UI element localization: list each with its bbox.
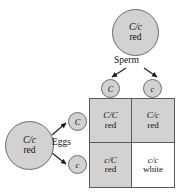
punnett-cell-2: C/c red [132,99,174,143]
punnett-cell-2-phenotype: red [147,121,159,130]
sperm-gamete-c: c [143,79,162,98]
arrow-sperm-left [112,68,126,77]
punnett-cell-3: c/C red [90,143,132,187]
punnett-cell-1: C/C red [90,99,132,143]
sperm-gamete-C: C [101,79,120,98]
arrow-egg-top [52,123,66,135]
arrow-sperm-right [144,68,157,77]
eggs-label: Eggs [52,137,71,147]
punnett-grid: C/C red C/c red c/C red c/c white [89,98,175,188]
arrow-egg-bottom [52,153,66,164]
punnett-square-diagram: C/c red Sperm C c C/c red Eggs C c C/C r… [0,0,180,193]
egg-parent-circle: C/c red [5,121,54,170]
punnett-cell-4-phenotype: white [143,165,163,174]
egg-gamete-c: c [68,155,87,174]
egg-parent-phenotype: red [23,146,35,156]
punnett-cell-4: c/c white [132,143,174,187]
punnett-cell-1-phenotype: red [105,121,117,130]
punnett-cell-3-phenotype: red [105,165,117,174]
egg-gamete-C: C [68,112,87,131]
